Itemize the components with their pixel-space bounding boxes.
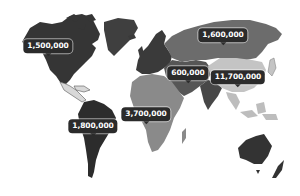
region-australia[interactable] xyxy=(238,134,272,164)
region-uk xyxy=(128,34,144,58)
region-central-america[interactable] xyxy=(60,82,86,102)
region-madagascar xyxy=(182,128,186,144)
callout-russia: 1,600,000 xyxy=(198,28,247,42)
callout-china: 11,700,000 xyxy=(211,70,265,84)
region-japan xyxy=(268,58,276,76)
callout-south-america: 1,800,000 xyxy=(68,119,117,133)
region-south-america[interactable] xyxy=(78,100,116,178)
callout-africa: 3,700,000 xyxy=(121,107,170,121)
region-southeast-asia[interactable] xyxy=(226,92,278,120)
callout-middle-east: 600,000 xyxy=(167,66,208,80)
callout-north-america: 1,500,000 xyxy=(23,39,72,53)
world-map xyxy=(0,0,300,196)
